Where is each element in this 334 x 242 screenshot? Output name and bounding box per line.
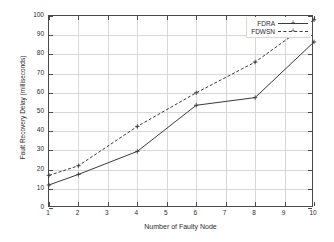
y-tick-label: 10 xyxy=(37,185,44,192)
legend-label-fdra: FDRA xyxy=(257,20,275,27)
legend-label-fdwsn: FDWSN xyxy=(251,28,275,35)
x-tick-label: 9 xyxy=(282,210,286,217)
x-tick xyxy=(314,202,315,206)
x-tick-label: 5 xyxy=(164,210,168,217)
x-tick-label: 8 xyxy=(252,210,256,217)
series-line-fdwsn xyxy=(49,20,314,176)
data-point-marker xyxy=(47,173,51,177)
legend-sample-solid-line: + xyxy=(278,19,308,27)
legend: FDRA + FDWSN + xyxy=(246,17,311,38)
x-tick-label: 3 xyxy=(105,210,109,217)
y-axis-title: Fault Recovery Delay (milliseconds) xyxy=(19,12,26,204)
data-point-marker xyxy=(194,91,198,95)
y-axis-tick-labels: 0102030405060708090100 xyxy=(24,15,44,207)
y-tick-label: 0 xyxy=(40,204,44,211)
chart-screenshot: FDRA + FDWSN + 0102030405060708090100 12… xyxy=(0,0,334,242)
y-tick-label: 100 xyxy=(33,12,44,19)
x-axis-tick-labels: 12345678910 xyxy=(48,210,313,220)
data-series-layer xyxy=(49,16,314,208)
x-tick-label: 1 xyxy=(46,210,50,217)
legend-sample-dashed-line: + xyxy=(278,27,308,35)
data-point-marker xyxy=(76,164,80,168)
data-point-marker xyxy=(47,183,51,187)
x-tick-label: 6 xyxy=(193,210,197,217)
x-tick-label: 7 xyxy=(223,210,227,217)
data-point-marker xyxy=(135,124,139,128)
plot-area: FDRA + FDWSN + xyxy=(48,15,313,207)
x-tick-label: 10 xyxy=(309,210,316,217)
legend-item-fdra: FDRA + xyxy=(251,19,308,27)
y-tick-label: 30 xyxy=(37,146,44,153)
x-axis-title: Number of Faulty Node xyxy=(48,223,313,230)
y-tick-label: 90 xyxy=(37,31,44,38)
y-tick-label: 80 xyxy=(37,50,44,57)
data-point-marker xyxy=(253,60,257,64)
y-tick-label: 50 xyxy=(37,108,44,115)
data-point-marker xyxy=(76,172,80,176)
x-tick-label: 2 xyxy=(76,210,80,217)
x-tick-label: 4 xyxy=(135,210,139,217)
y-tick-label: 40 xyxy=(37,127,44,134)
y-tick-label: 20 xyxy=(37,166,44,173)
legend-item-fdwsn: FDWSN + xyxy=(251,27,308,35)
y-tick-label: 70 xyxy=(37,70,44,77)
series-line-fdra xyxy=(49,42,314,185)
y-tick-label: 60 xyxy=(37,89,44,96)
